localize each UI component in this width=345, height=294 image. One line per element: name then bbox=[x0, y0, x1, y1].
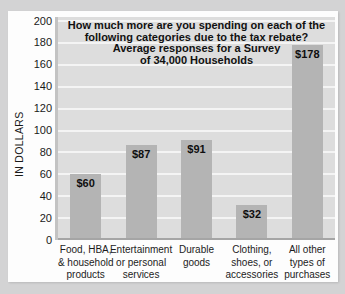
y-tick-180: 180 bbox=[8, 36, 52, 48]
bar-5: $178 bbox=[292, 45, 323, 240]
chart-title-line-3: Average responses for a Survey bbox=[58, 43, 335, 55]
y-tick-80: 80 bbox=[8, 146, 52, 158]
x-axis-labels: Food, HBA, & household productsEntertain… bbox=[58, 244, 335, 284]
y-tick-100: 100 bbox=[8, 124, 52, 136]
y-tick-0: 0 bbox=[8, 234, 52, 246]
y-tick-160: 160 bbox=[8, 58, 52, 70]
y-axis-ticks: 020406080100120140160180200 bbox=[8, 17, 52, 240]
y-tick-140: 140 bbox=[8, 80, 52, 92]
chart-title-line-1: How much more are you spending on each o… bbox=[58, 20, 335, 32]
plot-area: How much more are you spending on each o… bbox=[58, 17, 335, 240]
bar-value-label-1: $60 bbox=[70, 177, 101, 189]
chart-title-line-4: of 34,000 Households bbox=[58, 55, 335, 67]
y-tick-20: 20 bbox=[8, 212, 52, 224]
bar-2: $87 bbox=[126, 145, 157, 240]
bar-1: $60 bbox=[70, 174, 101, 240]
page-background: IN DOLLARS 020406080100120140160180200 H… bbox=[0, 0, 345, 294]
bar-3: $91 bbox=[181, 140, 212, 240]
y-tick-60: 60 bbox=[8, 168, 52, 180]
chart-card: IN DOLLARS 020406080100120140160180200 H… bbox=[8, 11, 338, 282]
bar-value-label-2: $87 bbox=[126, 148, 157, 160]
x-category-label-5: All other types of purchases bbox=[269, 244, 345, 282]
y-tick-120: 120 bbox=[8, 102, 52, 114]
x-axis-line bbox=[58, 238, 335, 240]
bar-value-label-4: $32 bbox=[236, 208, 267, 220]
y-tick-200: 200 bbox=[8, 15, 52, 27]
chart-title: How much more are you spending on each o… bbox=[58, 20, 335, 66]
bar-value-label-3: $91 bbox=[181, 143, 212, 155]
bar-4: $32 bbox=[236, 205, 267, 240]
y-tick-40: 40 bbox=[8, 190, 52, 202]
